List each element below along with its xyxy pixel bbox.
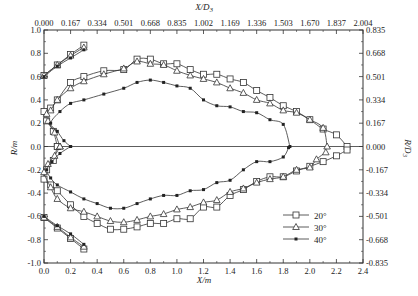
data-point bbox=[287, 146, 290, 149]
data-point bbox=[49, 122, 52, 125]
data-point bbox=[202, 98, 205, 101]
data-point bbox=[49, 176, 52, 179]
y-tick-label: -0.6 bbox=[28, 211, 41, 221]
data-point bbox=[242, 110, 245, 113]
series-20-deg bbox=[41, 42, 350, 252]
series-line-lower-line bbox=[44, 216, 84, 244]
data-point bbox=[82, 197, 85, 200]
legend-item: 20° bbox=[283, 211, 327, 221]
data-point bbox=[268, 160, 271, 163]
y-tick-label: 0.2 bbox=[30, 118, 41, 128]
x2-tick-label: 0.334 bbox=[88, 18, 108, 28]
data-point bbox=[45, 168, 48, 171]
data-point bbox=[189, 87, 192, 90]
data-point bbox=[174, 67, 181, 73]
series-curve-upper bbox=[44, 58, 347, 146]
data-point bbox=[254, 88, 260, 94]
x2-tick-label: 0.167 bbox=[61, 18, 80, 28]
data-point bbox=[69, 56, 72, 59]
data-point bbox=[147, 220, 153, 226]
data-point bbox=[282, 123, 285, 126]
data-point bbox=[50, 160, 53, 163]
x2-tick-label: 0.668 bbox=[141, 18, 160, 28]
y2-tick-label: -0.334 bbox=[366, 188, 389, 198]
x-axis-title: X/m bbox=[196, 275, 212, 285]
data-point bbox=[320, 159, 326, 165]
data-point bbox=[82, 48, 85, 51]
series-line-lower-line bbox=[44, 218, 84, 249]
data-point bbox=[161, 220, 167, 226]
x-tick-label: 0.2 bbox=[65, 266, 76, 276]
x-tick-label: 0.4 bbox=[92, 266, 103, 276]
legend-marker bbox=[293, 224, 300, 230]
x2-tick-label: 1.503 bbox=[274, 18, 293, 28]
data-point bbox=[333, 132, 339, 138]
data-point bbox=[69, 102, 72, 105]
data-point bbox=[255, 160, 258, 163]
legend-item: 40° bbox=[283, 235, 327, 245]
x-tick-label: 1.0 bbox=[172, 266, 183, 276]
x-tick-label: 2.2 bbox=[331, 266, 342, 276]
y-tick-label: 0.4 bbox=[30, 95, 41, 105]
data-point bbox=[333, 153, 339, 159]
data-point bbox=[94, 220, 100, 226]
y-tick-label: 0.0 bbox=[30, 142, 41, 152]
y2-tick-label: -0.668 bbox=[366, 235, 388, 245]
data-point bbox=[122, 87, 125, 90]
data-point bbox=[227, 85, 234, 91]
data-point bbox=[109, 207, 112, 210]
y2-tick-label: 0.000 bbox=[366, 142, 385, 152]
y-axis-title: R/m bbox=[9, 140, 19, 156]
y-tick-label: 1.0 bbox=[30, 25, 41, 35]
data-point bbox=[253, 96, 260, 102]
data-point bbox=[149, 79, 152, 82]
data-point bbox=[43, 75, 46, 78]
x2-tick-label: 1.336 bbox=[247, 18, 266, 28]
y2-tick-label: 0.334 bbox=[366, 95, 386, 105]
data-point bbox=[175, 194, 178, 197]
data-point bbox=[51, 152, 58, 158]
data-point bbox=[202, 188, 205, 191]
data-point bbox=[58, 152, 61, 155]
data-point bbox=[43, 215, 46, 218]
data-point bbox=[240, 79, 246, 85]
data-point bbox=[187, 216, 193, 222]
data-point bbox=[54, 188, 60, 194]
legend-marker bbox=[293, 212, 299, 218]
data-point bbox=[255, 111, 258, 114]
data-point bbox=[324, 143, 331, 149]
y2-tick-label: 0.668 bbox=[366, 48, 385, 58]
data-point bbox=[227, 76, 233, 82]
data-point bbox=[149, 197, 152, 200]
data-point bbox=[136, 81, 139, 84]
legend-marker bbox=[295, 238, 298, 241]
y2-tick-label: 0.501 bbox=[366, 72, 385, 82]
y2-tick-label: -0.501 bbox=[366, 211, 388, 221]
x-tick-label: 0.6 bbox=[118, 266, 129, 276]
data-point bbox=[136, 202, 139, 205]
data-point bbox=[229, 105, 232, 108]
data-point bbox=[69, 232, 72, 235]
data-point bbox=[102, 93, 105, 96]
y2-tick-label: 0.167 bbox=[366, 118, 385, 128]
y-tick-label: -0.4 bbox=[28, 188, 42, 198]
x2-tick-label: 1.002 bbox=[194, 18, 213, 28]
y-tick-label: -0.8 bbox=[28, 235, 41, 245]
data-point bbox=[56, 224, 59, 227]
y-tick-label: -0.2 bbox=[28, 165, 41, 175]
x2-tick-label: 1.670 bbox=[300, 18, 319, 28]
y-tick-label: 0.8 bbox=[30, 48, 41, 58]
x-tick-label: 1.6 bbox=[251, 266, 262, 276]
data-point bbox=[58, 110, 61, 113]
data-point bbox=[56, 183, 59, 186]
data-point bbox=[229, 179, 232, 182]
data-point bbox=[56, 130, 59, 133]
legend-label: 20° bbox=[314, 211, 327, 221]
y2-tick-label: 0.835 bbox=[366, 25, 385, 35]
data-point bbox=[282, 155, 285, 158]
x2-axis-title: X/D3 bbox=[194, 2, 214, 13]
data-point bbox=[242, 168, 245, 171]
data-point bbox=[214, 71, 220, 77]
data-point bbox=[214, 204, 220, 210]
y2-tick-label: -0.167 bbox=[366, 165, 388, 175]
